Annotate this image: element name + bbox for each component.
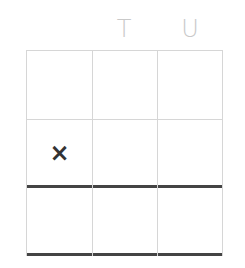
grid-line-bottom-thick xyxy=(26,253,223,256)
cell-r0-c0[interactable] xyxy=(27,51,92,119)
cell-r0-c1[interactable] xyxy=(93,51,157,119)
cell-r1-c1[interactable] xyxy=(93,120,157,185)
cell-r0-c2[interactable] xyxy=(158,51,222,119)
column-label-t: T xyxy=(109,15,139,43)
game-board: × xyxy=(26,50,223,256)
grid-line-right xyxy=(222,50,223,256)
x-mark-icon: × xyxy=(49,141,69,165)
cell-r2-c2[interactable] xyxy=(158,188,222,253)
column-label-u: U xyxy=(175,15,205,43)
cell-r1-c0[interactable]: × xyxy=(27,120,92,185)
cell-r2-c1[interactable] xyxy=(93,188,157,253)
cell-r1-c2[interactable] xyxy=(158,120,222,185)
cell-r2-c0[interactable] xyxy=(27,188,92,253)
